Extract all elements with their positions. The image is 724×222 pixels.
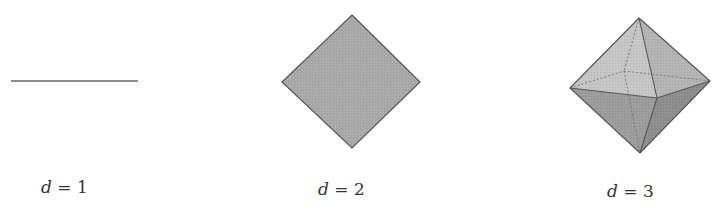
label-equals: = xyxy=(52,177,77,197)
label-value: 1 xyxy=(77,177,88,197)
label-variable: d xyxy=(318,179,329,199)
diamond-2d xyxy=(282,15,420,148)
label-d-1: d = 1 xyxy=(41,177,88,197)
label-variable: d xyxy=(41,177,52,197)
label-value: 2 xyxy=(354,179,365,199)
octahedron-3d xyxy=(570,18,710,153)
label-variable: d xyxy=(607,181,618,201)
label-d-2: d = 2 xyxy=(318,179,365,199)
label-d-3: d = 3 xyxy=(607,181,654,201)
label-equals: = xyxy=(618,181,643,201)
label-equals: = xyxy=(329,179,354,199)
label-value: 3 xyxy=(643,181,654,201)
